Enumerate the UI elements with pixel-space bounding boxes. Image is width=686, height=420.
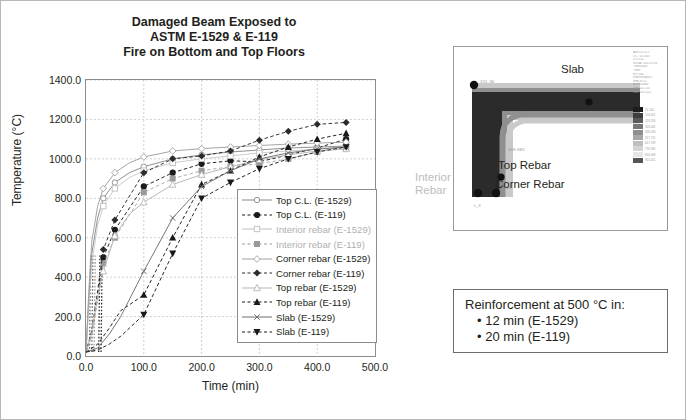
callout-title: Reinforcement at 500 °C in: — [465, 297, 658, 312]
svg-text:409.083: 409.083 — [508, 147, 525, 152]
fea-colorbar-value: 318.401 — [645, 125, 655, 129]
legend-item[interactable]: Slab (E-119) — [240, 324, 372, 339]
legend-item[interactable]: Top rebar (E-119) — [240, 295, 372, 310]
fea-solution-header: ANSYS 5.0.1OCT 10 200313:25:41NODAL SOLU… — [633, 51, 679, 107]
legend-marker-diamond-open-icon — [240, 253, 274, 265]
legend-marker-diamond-filled-icon — [240, 267, 274, 279]
chart-title-line-1: Damaged Beam Exposed to — [19, 15, 409, 30]
fea-colorbar-value: 816.009 — [645, 153, 655, 157]
legend-label: Top rebar (E-1529) — [276, 282, 357, 293]
fea-colorbar-swatch — [633, 152, 643, 157]
legend-item[interactable]: Corner rebar (E-119) — [240, 266, 372, 281]
y-axis-ticks: 0.0200.0400.0600.0800.01000.01200.01400.… — [1, 79, 81, 357]
y-tick-label: 1400.0 — [49, 74, 81, 86]
legend-item[interactable]: Slab (E-1529) — [240, 310, 372, 325]
fea-colorbar-row: 915.411 — [633, 157, 679, 163]
legend-item[interactable]: Interior rebar (E-1529) — [240, 222, 372, 237]
x-axis-label: Time (min) — [85, 379, 376, 393]
x-tick-label: 0.0 — [79, 361, 94, 373]
fea-colorbar-swatch — [633, 135, 643, 140]
fea-colorbar-swatch — [633, 113, 643, 118]
fea-colorbar-value: 21.105 — [645, 108, 654, 112]
legend-item[interactable]: Interior rebar (E-119) — [240, 237, 372, 252]
legend-marker-circle-open-icon — [240, 194, 274, 206]
legend-label: Interior rebar (E-119) — [276, 239, 365, 250]
y-tick-label: 1000.0 — [49, 153, 81, 165]
x-tick-label: 100.0 — [131, 361, 157, 373]
legend-marker-triangle-filled-icon — [240, 296, 274, 308]
legend-label: Top rebar (E-119) — [276, 297, 350, 308]
fea-colorbar-value: 517.711 — [645, 136, 655, 140]
fea-header-line: SMX =915.411 — [633, 91, 679, 95]
legend-label: Slab (E-119) — [276, 326, 329, 337]
legend-marker-circle-filled-icon — [240, 209, 274, 221]
legend-label: Corner rebar (E-1529) — [276, 253, 370, 264]
fea-colorbar-value: 716.581 — [645, 147, 655, 151]
fea-colorbar-value: 219.254 — [645, 119, 655, 123]
legend-item[interactable]: Top rebar (E-1529) — [240, 281, 372, 296]
fea-colorbar-value: 120.611 — [645, 113, 655, 117]
fea-colorbar-swatch — [633, 107, 643, 112]
legend-label: Corner rebar (E-119) — [276, 268, 364, 279]
fea-colorbar-swatch — [633, 158, 643, 163]
y-tick-label: 400.0 — [55, 271, 81, 283]
fea-colorbar-value: 418.234 — [645, 130, 655, 134]
chart-title: Damaged Beam Exposed to ASTM E-1529 & E-… — [19, 15, 409, 60]
callout-item-1: • 20 min (E-119) — [477, 329, 658, 344]
fea-colorbar-swatch — [633, 124, 643, 129]
fea-label-slab: Slab — [561, 63, 584, 75]
y-tick-label: 1200.0 — [49, 113, 81, 125]
svg-text:L_X: L_X — [474, 203, 481, 208]
legend-label: Top C.L. (E-1529) — [276, 195, 352, 206]
chart-legend[interactable]: Top C.L. (E-1529)Top C.L. (E-119)Interio… — [237, 189, 377, 343]
svg-text:431.36: 431.36 — [480, 79, 494, 84]
x-tick-label: 300.0 — [246, 361, 272, 373]
x-tick-label: 200.0 — [188, 361, 214, 373]
fea-label-corner-rebar: Corner Rebar — [495, 178, 565, 190]
legend-marker-cross-icon — [240, 311, 274, 323]
chart-panel: Damaged Beam Exposed to ASTM E-1529 & E-… — [1, 1, 431, 401]
y-tick-label: 200.0 — [55, 311, 81, 323]
legend-item[interactable]: Top C.L. (E-119) — [240, 208, 372, 223]
fea-colorbar-swatch — [633, 130, 643, 135]
legend-marker-square-open-icon — [240, 223, 274, 235]
x-tick-label: 500.0 — [362, 361, 388, 373]
fea-colorbar: 21.105120.611219.254318.401418.234517.71… — [633, 107, 679, 163]
chart-title-line-2: ASTM E-1529 & E-119 — [19, 30, 409, 45]
callout-box: Reinforcement at 500 °C in: • 12 min (E-… — [453, 289, 668, 353]
fea-colorbar-value: 617.139 — [645, 141, 655, 145]
legend-marker-inv-triangle-filled-icon — [240, 326, 274, 338]
legend-label: Interior rebar (E-1529) — [276, 224, 371, 235]
legend-marker-triangle-open-icon — [240, 282, 274, 294]
x-tick-label: 400.0 — [304, 361, 330, 373]
chart-title-line-3: Fire on Bottom and Top Floors — [19, 45, 409, 60]
figure-container: Damaged Beam Exposed to ASTM E-1529 & E-… — [0, 0, 686, 420]
fea-colorbar-value: 915.411 — [645, 158, 655, 162]
legend-label: Slab (E-1529) — [276, 312, 335, 323]
legend-item[interactable]: Corner rebar (E-1529) — [240, 251, 372, 266]
y-tick-label: 600.0 — [55, 232, 81, 244]
fea-label-interior-rebar: InteriorRebar — [415, 171, 459, 197]
fea-label-top-rebar: Top Rebar — [498, 159, 551, 171]
legend-item[interactable]: Top C.L. (E-1529) — [240, 193, 372, 208]
fea-colorbar-swatch — [633, 146, 643, 151]
legend-marker-square-filled-icon — [240, 238, 274, 250]
legend-label: Top C.L. (E-119) — [276, 209, 346, 220]
fea-colorbar-swatch — [633, 118, 643, 123]
fea-colorbar-swatch — [633, 141, 643, 146]
y-tick-label: 800.0 — [55, 192, 81, 204]
callout-item-0: • 12 min (E-1529) — [477, 313, 658, 328]
x-axis-ticks: 0.0100.0200.0300.0400.0500.0 — [85, 361, 376, 379]
